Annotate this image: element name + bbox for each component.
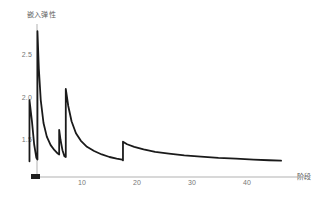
chart-page: · · ·· ·· · · ·· ··· ···· 嵌入弹性 阶段 2.5 2.… bbox=[0, 0, 318, 201]
chart-container: 嵌入弹性 阶段 2.5 2.0 1.5 10 20 30 40 bbox=[0, 0, 318, 201]
origin-marker bbox=[31, 174, 40, 179]
data-series-line bbox=[29, 31, 281, 161]
plot-svg bbox=[0, 0, 318, 201]
